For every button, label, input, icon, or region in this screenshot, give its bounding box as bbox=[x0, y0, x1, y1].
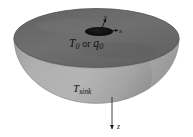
sink-subscript: sink bbox=[79, 87, 91, 96]
heat-source-patch bbox=[85, 27, 113, 36]
x-axis-label: x bbox=[119, 28, 122, 35]
label-conjunction: or bbox=[80, 38, 94, 49]
source-condition-label: T0 or q0 bbox=[69, 38, 103, 51]
source-flux-subscript: 0 bbox=[99, 42, 103, 51]
z-axis-label: z bbox=[117, 123, 120, 131]
figure-canvas bbox=[0, 0, 193, 137]
sink-temperature-label: Tsink bbox=[73, 83, 91, 95]
hemisphere-heat-sink-figure: T0 or q0 Tsink x y z bbox=[0, 0, 193, 137]
y-axis-label: y bbox=[104, 14, 107, 21]
